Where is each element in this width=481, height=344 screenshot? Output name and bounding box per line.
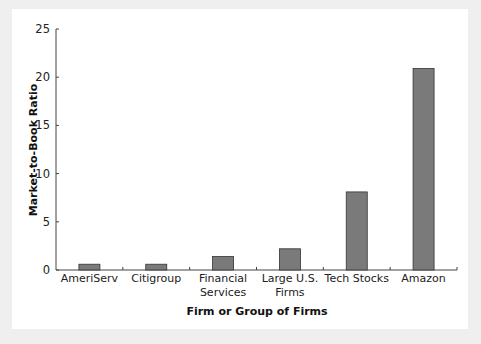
category-label: AmeriServ	[61, 272, 119, 285]
category-label: Firms	[275, 286, 305, 299]
y-tick-label: 20	[35, 70, 50, 84]
y-axis-title: Market-to-Book Ratio	[27, 83, 40, 216]
bar-amazon	[413, 69, 434, 270]
category-label: Financial	[199, 272, 247, 285]
y-tick-label: 5	[43, 215, 50, 229]
category-label: Services	[200, 286, 247, 299]
bar-chart: 0510152025 AmeriServCitigroupFinancialSe…	[0, 0, 481, 344]
y-tick-label: 25	[35, 22, 50, 36]
category-label: Tech Stocks	[324, 272, 390, 285]
bar-citigroup	[146, 264, 167, 270]
x-axis-title: Firm or Group of Firms	[186, 305, 328, 318]
bar-tech-stocks	[346, 192, 367, 270]
bar-large-u-s-firms	[279, 249, 300, 270]
category-label: Citigroup	[131, 272, 181, 285]
category-label: Amazon	[401, 272, 445, 285]
bars	[79, 69, 434, 270]
category-label: Large U.S.	[262, 272, 318, 285]
y-tick-label: 0	[43, 263, 50, 277]
bar-ameriserv	[79, 264, 100, 270]
category-labels: AmeriServCitigroupFinancialServicesLarge…	[61, 272, 446, 299]
x-axis	[56, 267, 457, 270]
bar-financial-services	[213, 257, 234, 270]
